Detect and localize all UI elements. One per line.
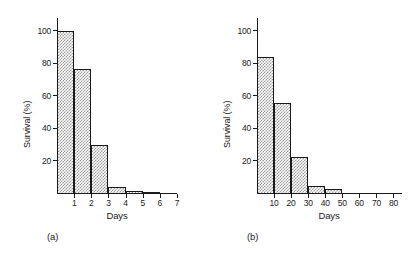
bar [108,187,125,194]
bar [143,192,160,194]
y-tick-label: 40 [42,125,51,134]
panel-b: 204060801001020304050607080 Survival (%)… [209,0,418,255]
y-tick-label: 100 [37,27,51,36]
x-tick-label: 30 [304,199,313,208]
x-tick-label: 1 [72,199,77,208]
x-tick-label: 6 [158,199,163,208]
bar [126,191,143,194]
x-tick-label: 7 [175,199,180,208]
x-axis-label-b: Days [318,210,339,221]
y-tick-label: 100 [237,27,251,36]
x-tick-label: 2 [89,199,94,208]
bar [291,157,308,194]
x-tick-label: 40 [321,199,330,208]
x-tick-label: 20 [287,199,296,208]
x-tick-label: 4 [123,199,128,208]
figure-survival-histograms: 204060801001234567 Survival (%) Days (a)… [0,0,418,255]
bar [57,31,74,194]
y-tick-label: 80 [242,59,251,68]
x-tick-label: 70 [372,199,381,208]
x-tick-label: 60 [355,199,364,208]
plot-area-a: 204060801001234567 [57,18,177,194]
y-axis-label-b: Survival (%) [222,101,232,148]
bar [74,69,91,194]
y-tick-label: 40 [242,125,251,134]
y-tick-label: 80 [42,59,51,68]
y-tick-label: 60 [42,92,51,101]
bar [91,145,108,194]
bar [274,103,291,194]
y-tick-label: 60 [242,92,251,101]
y-axis-label-a: Survival (%) [22,101,32,148]
x-tick-label: 50 [338,199,347,208]
y-tick-label: 20 [42,157,51,166]
panel-tag-b: (b) [247,231,258,242]
panel-tag-a: (a) [47,231,58,242]
bar [325,189,342,194]
y-tick-label: 20 [242,157,251,166]
plot-area-b: 204060801001020304050607080 [257,18,402,194]
bar [257,57,274,194]
x-tick-label: 5 [140,199,145,208]
bar [308,186,325,194]
panel-a: 204060801001234567 Survival (%) Days (a) [0,0,209,255]
y-tick-mark [253,30,257,31]
x-tick-label: 3 [106,199,111,208]
x-axis-label-a: Days [106,210,127,221]
x-tick-label: 80 [389,199,398,208]
x-tick-label: 10 [270,199,279,208]
